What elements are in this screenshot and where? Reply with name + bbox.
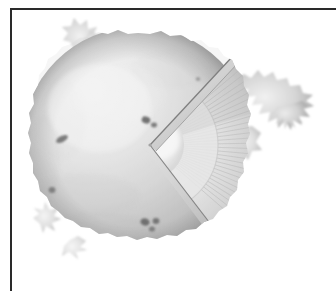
texture-wash xyxy=(18,20,274,276)
sun-cutaway-illustration: Cutaway illustration of the Sun core rad… xyxy=(0,0,336,291)
figure-root: Cutaway illustration of the Sun core rad… xyxy=(0,0,336,291)
sun-diagram-svg: Cutaway illustration of the Sun core rad… xyxy=(0,0,336,291)
sunspot xyxy=(137,257,143,261)
prominence-bottom-wisp xyxy=(62,236,87,259)
